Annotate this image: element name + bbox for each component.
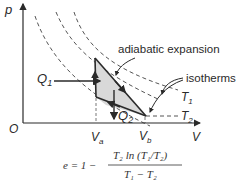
- isotherms-leader-arrow-2: [150, 80, 183, 112]
- t1-label: T1: [181, 90, 193, 106]
- formula-lhs: e = 1 −: [63, 159, 96, 171]
- t2-label: T2: [181, 109, 193, 125]
- x-axis-label: V: [192, 130, 201, 144]
- y-axis-label: p: [4, 2, 12, 17]
- dashed-curves: [35, 12, 178, 126]
- pv-cycle-diagram: p O V Va Vb Q1 Q2 T1 T2 adiabatic expans…: [0, 0, 249, 185]
- adiabatic-expansion-label: adiabatic expansion: [118, 43, 220, 55]
- formula-numerator: T₂ ln (T₁/T₂): [113, 149, 168, 162]
- efficiency-formula: e = 1 − T₂ ln (T₁/T₂) T₁ − T₂: [63, 149, 182, 180]
- formula-denominator: T₁ − T₂: [124, 168, 157, 180]
- q1-label: Q1: [37, 71, 52, 88]
- va-label: Va: [91, 130, 104, 146]
- vb-label: Vb: [139, 129, 152, 145]
- origin-label: O: [9, 122, 18, 136]
- isotherms-label: isotherms: [186, 72, 236, 84]
